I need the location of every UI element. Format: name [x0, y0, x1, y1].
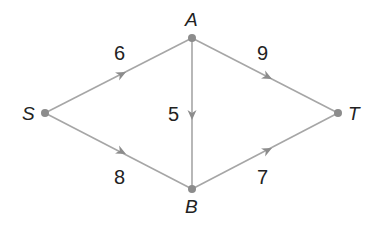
node-b [188, 185, 196, 193]
node-a [188, 34, 196, 42]
arrow-a-t-icon [261, 70, 274, 83]
node-label-s: S [22, 103, 35, 124]
node-label-b: B [185, 196, 198, 217]
arrow-s-a-icon [115, 68, 128, 81]
weight-b-t: 7 [257, 166, 268, 188]
network-diagram: S A B T 6 8 5 9 7 [0, 0, 377, 226]
node-label-a: A [184, 9, 198, 30]
weight-s-b: 8 [114, 166, 125, 188]
arrow-b-t-icon [261, 144, 274, 157]
weight-a-t: 9 [257, 42, 268, 64]
weight-a-b: 5 [168, 103, 179, 125]
arrow-s-b-icon [115, 145, 128, 158]
weight-s-a: 6 [114, 42, 125, 64]
node-label-t: T [348, 103, 361, 124]
node-t [334, 109, 342, 117]
node-s [41, 109, 49, 117]
